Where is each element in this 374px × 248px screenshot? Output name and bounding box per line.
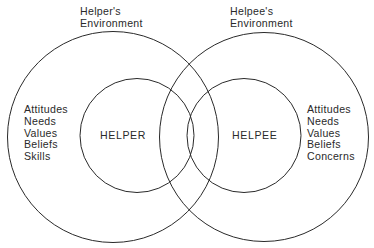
helper-attribute: Needs	[24, 116, 68, 128]
helpee-attributes-list: Attitudes Needs Values Beliefs Concerns	[307, 104, 355, 163]
helper-attribute: Skills	[24, 151, 68, 163]
helper-environment-label: Helper's Environment	[80, 6, 143, 30]
helpee-attribute: Needs	[307, 116, 355, 128]
helper-environment-line2: Environment	[80, 18, 143, 30]
helpee-environment-line2: Environment	[230, 18, 293, 30]
helpee-attribute: Concerns	[307, 151, 355, 163]
helper-label: HELPER	[100, 130, 146, 142]
helpee-environment-label: Helpee's Environment	[230, 6, 293, 30]
helpee-label: HELPEE	[232, 130, 277, 142]
helper-attributes-list: Attitudes Needs Values Beliefs Skills	[24, 104, 68, 163]
